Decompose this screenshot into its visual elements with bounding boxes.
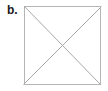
- square-with-diagonals-diagram: [0, 0, 108, 91]
- figure-panel: b.: [0, 0, 108, 91]
